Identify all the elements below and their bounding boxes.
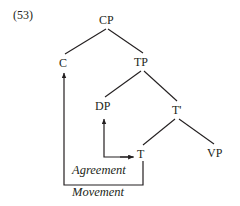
tree-node-cp: CP [99,14,114,26]
branch-tp-dp [105,71,141,97]
branch-tbar-vp [179,119,214,144]
branch-cp-tp [108,29,143,53]
branch-tbar-t [143,119,175,145]
tree-node-t: T [137,148,144,160]
agreement-arrow [104,119,134,157]
movement-label: Movement [72,186,124,199]
tree-node-t-bar: T' [172,104,182,116]
tree-node-tp: TP [134,56,148,68]
tree-node-c: C [59,57,67,69]
syntax-tree-figure: (53) CP C TP DP T' T VP Agreement Moveme… [0,0,240,206]
agreement-label: Agreement [72,164,126,177]
tree-node-dp: DP [95,100,110,112]
branch-cp-c [65,29,106,54]
branch-tp-tbar [144,71,177,101]
tree-node-vp: VP [207,147,222,159]
